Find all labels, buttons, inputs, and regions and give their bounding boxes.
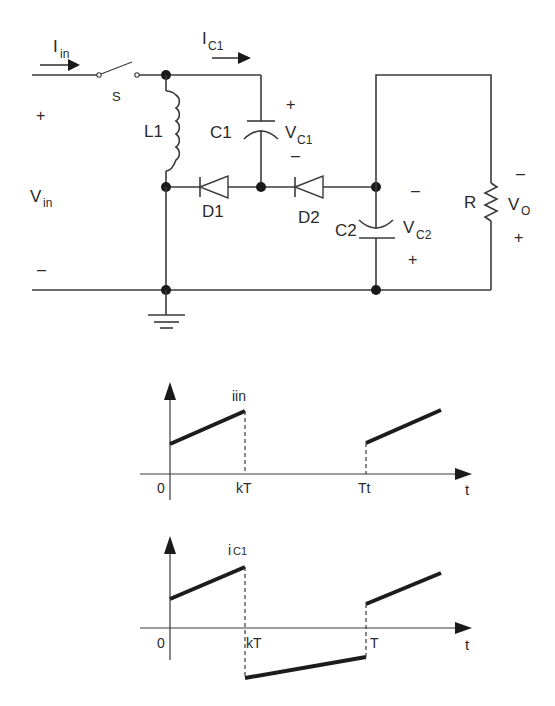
- svg-text:V: V: [508, 195, 520, 214]
- svg-text:in: in: [60, 47, 69, 61]
- y-axis-arrow-icon: [164, 536, 176, 554]
- waveform-ic1: i C1 0 kT T t: [140, 536, 472, 678]
- diode-d1: D1: [200, 176, 228, 221]
- waveform-segment: [245, 657, 366, 678]
- diagram-canvas: I in S I C1 + V in: [0, 0, 555, 706]
- capacitor-c2: C2: [335, 187, 395, 290]
- svg-text:R: R: [464, 193, 476, 212]
- inductor-l1: L1: [144, 75, 179, 187]
- junction-node: [371, 285, 381, 295]
- tick-label-origin: 0: [157, 635, 165, 651]
- svg-text:L1: L1: [144, 122, 163, 141]
- waveform-segment: [170, 411, 245, 444]
- waveform-segment: [366, 410, 441, 443]
- tick-label-kt: kT: [236, 480, 252, 496]
- waveform-segment: [366, 573, 441, 604]
- cap2-voltage-label: V C2: [403, 218, 432, 242]
- cap1-voltage-label: V C1: [285, 123, 313, 147]
- output-voltage-label: V O: [508, 195, 530, 218]
- svg-text:D1: D1: [202, 202, 224, 221]
- x-axis-arrow-icon: [455, 468, 472, 480]
- cap2-plus-sign: +: [408, 251, 417, 268]
- resistor-r: R: [464, 183, 497, 290]
- input-minus-sign: –: [37, 261, 46, 278]
- input-voltage-label: V in: [30, 187, 52, 210]
- diode-d2: D2: [295, 176, 323, 227]
- cap2-minus-sign: –: [411, 182, 420, 199]
- input-current-label: I in: [53, 37, 69, 61]
- cap1-plus-sign: +: [286, 96, 295, 113]
- svg-text:S: S: [112, 89, 121, 104]
- x-axis-label: t: [465, 481, 470, 498]
- x-axis-label: t: [465, 636, 470, 653]
- output-plus-sign: +: [514, 229, 523, 246]
- svg-text:C1: C1: [208, 39, 224, 53]
- svg-text:C2: C2: [416, 228, 432, 242]
- svg-text:V: V: [30, 187, 42, 206]
- svg-text:C1: C1: [210, 123, 232, 142]
- waveform-iin: iin 0 kT Tt t: [140, 382, 472, 500]
- svg-text:O: O: [521, 204, 530, 218]
- svg-text:C2: C2: [335, 221, 357, 240]
- switch-s: S: [97, 62, 139, 104]
- y-axis-arrow-icon: [164, 382, 176, 400]
- output-minus-sign: –: [516, 165, 525, 182]
- y-axis-label: i C1: [228, 542, 247, 558]
- cap1-current-label: I C1: [202, 29, 224, 53]
- circuit-schematic: I in S I C1 + V in: [30, 29, 530, 328]
- svg-text:I: I: [53, 37, 58, 56]
- junction-node: [256, 182, 266, 192]
- output-wire: [376, 75, 491, 187]
- svg-text:i: i: [228, 542, 231, 558]
- input-plus-sign: +: [36, 107, 45, 124]
- x-axis-arrow-icon: [455, 622, 472, 634]
- tick-label-t: T: [370, 635, 379, 651]
- svg-text:V: V: [403, 218, 415, 237]
- cap1-current-arrow-icon: [212, 52, 251, 64]
- cap1-minus-sign: –: [291, 147, 300, 164]
- svg-text:V: V: [285, 123, 297, 142]
- ground-icon: [148, 290, 185, 328]
- svg-text:I: I: [202, 29, 207, 48]
- svg-text:C1: C1: [297, 133, 313, 147]
- svg-text:in: in: [43, 196, 52, 210]
- tick-label-kt: kT: [246, 635, 262, 651]
- y-axis-label: iin: [232, 388, 246, 404]
- tick-label-t: Tt: [358, 480, 371, 496]
- svg-text:D2: D2: [298, 208, 320, 227]
- waveform-segment: [170, 567, 245, 599]
- tick-label-origin: 0: [157, 480, 165, 496]
- capacitor-c1: C1: [210, 75, 278, 187]
- svg-text:C1: C1: [233, 545, 247, 557]
